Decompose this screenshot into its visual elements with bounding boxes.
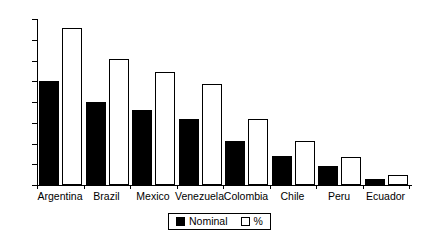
filled-square-icon <box>176 217 185 226</box>
x-axis-category-label: Argentina <box>38 190 83 202</box>
y-axis-tick-label-wrap: 10 <box>0 164 37 165</box>
legend-entry-percent[interactable]: % <box>241 216 263 227</box>
bar-nominal <box>39 81 59 185</box>
bar-percent <box>295 141 315 185</box>
x-axis-category-label: Brazil <box>93 190 119 202</box>
bar-nominal <box>225 141 245 185</box>
bar-percent <box>155 72 175 185</box>
x-axis-category-label: Ecuador <box>366 190 405 202</box>
bar-percent <box>202 84 222 185</box>
x-axis-category-label: Peru <box>328 190 350 202</box>
x-axis-tick <box>177 185 178 189</box>
y-axis-tick-label-wrap: 30 <box>0 123 37 124</box>
bar-percent <box>62 28 82 185</box>
bar-group <box>39 19 82 185</box>
x-axis-tick <box>223 185 224 189</box>
bar-group <box>318 19 361 185</box>
bar-percent <box>248 119 268 185</box>
y-axis-tick-label-wrap: 80 <box>0 19 37 20</box>
legend-label-nominal: Nominal <box>189 216 228 227</box>
y-axis-tick-label-wrap: 40 <box>0 102 37 103</box>
legend-entry-nominal[interactable]: Nominal <box>176 216 228 227</box>
bar-percent <box>341 157 361 185</box>
bar-nominal <box>318 166 338 185</box>
bar-group <box>272 19 315 185</box>
x-axis-category-label: Chile <box>281 190 305 202</box>
bar-group <box>86 19 129 185</box>
hollow-square-icon <box>241 217 250 226</box>
x-axis-tick <box>84 185 85 189</box>
bar-group <box>132 19 175 185</box>
bar-group <box>225 19 268 185</box>
bar-nominal <box>272 156 292 185</box>
x-axis-tick <box>37 185 38 189</box>
bar-nominal <box>132 110 152 185</box>
bar-chart-figure: 01020304050607080 ArgentinaBrazilMexicoV… <box>0 0 426 239</box>
bar-nominal <box>86 102 106 185</box>
x-axis-tick <box>270 185 271 189</box>
bar-nominal <box>179 119 199 185</box>
plot-area <box>38 19 412 185</box>
bar-nominal <box>365 179 385 185</box>
x-axis-tick <box>409 185 410 189</box>
x-axis-line <box>37 185 412 186</box>
bar-group <box>365 19 408 185</box>
bar-percent <box>388 175 408 185</box>
x-axis-category-label: Colombia <box>224 190 268 202</box>
y-axis-tick-label-wrap: 20 <box>0 144 37 145</box>
bar-percent <box>109 59 129 185</box>
legend-label-percent: % <box>254 216 263 227</box>
x-axis-tick <box>316 185 317 189</box>
x-axis-tick <box>363 185 364 189</box>
bar-group <box>179 19 222 185</box>
x-axis-category-label: Venezuela <box>175 190 224 202</box>
y-axis-tick-label-wrap: 70 <box>0 40 37 41</box>
x-axis-category-label: Mexico <box>136 190 169 202</box>
x-axis-tick <box>130 185 131 189</box>
y-axis-tick-label-wrap: 60 <box>0 61 37 62</box>
chart-legend: Nominal % <box>168 213 271 230</box>
y-axis-tick-label-wrap: 50 <box>0 81 37 82</box>
y-axis-tick-label-wrap: 0 <box>0 185 37 186</box>
